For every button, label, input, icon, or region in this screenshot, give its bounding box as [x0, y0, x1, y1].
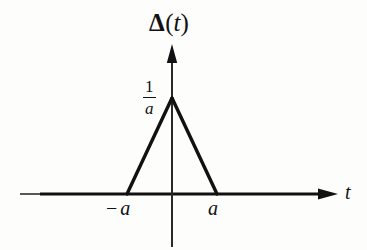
- fraction-numerator: 1: [143, 78, 156, 97]
- x-axis-label: t: [345, 182, 351, 202]
- fraction-one-over-a: 1 a: [143, 78, 156, 118]
- pulse-falling-edge: [172, 98, 217, 194]
- peak-value-label: 1 a: [143, 78, 156, 118]
- y-axis-title: Δ(t): [149, 10, 189, 35]
- fraction-denominator: a: [143, 99, 156, 118]
- x-tick-label-negative-a: −a: [106, 198, 130, 218]
- y-axis-arrowhead: [167, 44, 177, 63]
- x-tick-label-a: a: [208, 198, 218, 218]
- fraction-bar: [143, 97, 156, 98]
- x-axis-arrowhead: [318, 189, 338, 200]
- title-close-paren: ): [180, 9, 188, 36]
- figure-canvas: Δ(t) 1 a −a a t: [0, 0, 367, 250]
- x-tick-variable-negative: a: [120, 197, 130, 219]
- delta-symbol: Δ: [149, 9, 165, 36]
- plot-svg: [0, 0, 367, 250]
- title-open-paren: (: [165, 9, 173, 36]
- minus-sign: −: [106, 197, 117, 219]
